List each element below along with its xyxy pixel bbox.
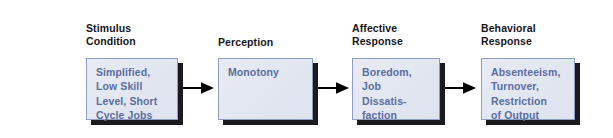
flow-diagram: Stimulus Condition Simplified, Low Skill… — [0, 0, 613, 138]
stage-box-behavioral-response: Absenteeism, Turnover, Restriction of Ou… — [481, 58, 575, 120]
box-text-behavioral-response: Absenteeism, Turnover, Restriction of Ou… — [491, 65, 570, 122]
box-face: Absenteeism, Turnover, Restriction of Ou… — [481, 58, 575, 120]
stage-label-behavioral-response: Behavioral Response — [481, 22, 536, 47]
stage-behavioral-response: Behavioral Response Absenteeism, Turnove… — [0, 0, 613, 138]
